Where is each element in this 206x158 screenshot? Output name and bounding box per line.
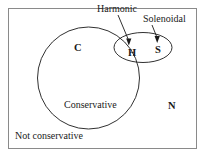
not-conservative-set-label: N <box>168 101 176 112</box>
not-conservative-region-label: Not conservative <box>15 131 83 141</box>
harmonic-set-label: H <box>128 48 136 59</box>
venn-diagram-figure: Harmonic Solenoidal C H S N Conservative… <box>0 0 206 158</box>
conservative-set-label: C <box>74 43 82 54</box>
solenoidal-label: Solenoidal <box>143 14 186 24</box>
conservative-region-label: Conservative <box>64 100 117 110</box>
solenoidal-set-label: S <box>155 45 161 56</box>
harmonic-label: Harmonic <box>97 4 137 14</box>
